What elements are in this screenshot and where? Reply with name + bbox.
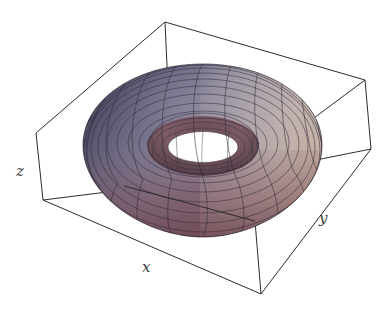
torus-surface [60,50,360,260]
axis-label-z: z [16,164,24,179]
torus-surface-figure: x y z [0,0,387,316]
plot-canvas [0,0,387,316]
box-front-vertical [255,221,261,294]
axis-label-y: y [319,211,327,226]
box-right-vertical [365,80,371,149]
box-left-vertical [36,133,43,200]
axis-label-x: x [142,260,150,275]
